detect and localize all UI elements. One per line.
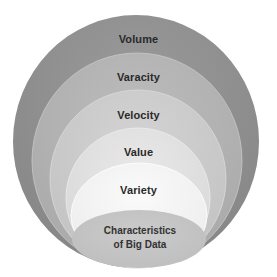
layer-label-volume: Volume [0, 33, 277, 46]
core-label-line2: of Big Data [72, 238, 208, 252]
layer-label-varacity: Varacity [0, 71, 277, 84]
layer-label-variety: Variety [0, 184, 277, 197]
core-label-line1: Characteristics [72, 224, 208, 238]
layer-label-value: Value [0, 146, 277, 159]
layer-label-velocity: Velocity [0, 109, 277, 122]
big-data-characteristics-diagram: Volume Varacity Velocity Value Variety C… [0, 0, 277, 277]
